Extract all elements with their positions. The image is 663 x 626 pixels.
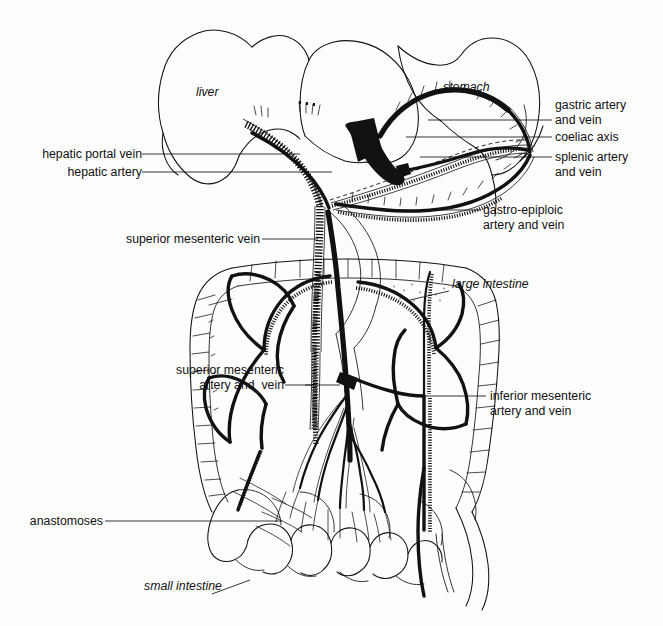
- hepatic-artery-vessel: [252, 133, 329, 208]
- label-stomach: stomach: [443, 80, 489, 95]
- coeliac-axis-vessel: [345, 81, 533, 185]
- label-coeliac-axis: coeliac axis: [555, 130, 619, 145]
- splenic-artery-vessel: [396, 148, 527, 178]
- label-large-intestine: large intestine: [452, 277, 529, 292]
- label-superior-mesenteric-vein: superior mesenteric vein: [0, 232, 260, 247]
- label-gastric-artery-and-vein: gastric artery and vein: [555, 98, 626, 127]
- label-gastro-epiploic-artery-and-vein: gastro-epiploic artery and vein: [483, 203, 564, 232]
- label-hepatic-portal-vein: hepatic portal vein: [0, 147, 142, 162]
- label-superior-mesenteric-artery-and-vein: superior mesenteric artery and vein: [0, 363, 284, 392]
- mesentery-stipple: [394, 284, 444, 301]
- label-small-intestine: small intestine: [144, 579, 222, 594]
- anatomy-figure: liver stomach large intestine small inte…: [0, 0, 663, 626]
- label-liver: liver: [196, 85, 219, 100]
- label-anastomoses: anastomoses: [0, 514, 103, 529]
- anatomy-drawing: [0, 0, 663, 626]
- leader-lines: [105, 120, 552, 594]
- label-hepatic-artery: hepatic artery: [0, 165, 142, 180]
- label-splenic-artery-and-vein: splenic artery and vein: [555, 150, 628, 179]
- label-inferior-mesenteric-artery-and-vein: inferior mesenteric artery and vein: [490, 389, 591, 418]
